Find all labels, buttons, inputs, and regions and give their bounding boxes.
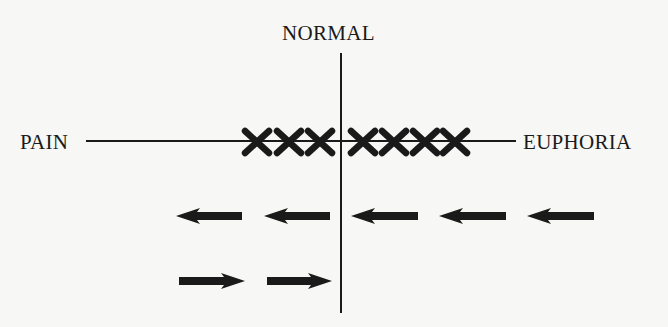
- arrow-left-icon: [439, 208, 506, 224]
- normal-label: NORMAL: [282, 23, 375, 44]
- diagram-graphic: [0, 0, 668, 327]
- arrow-rows: [176, 208, 594, 289]
- arrow-left-icon: [351, 208, 418, 224]
- arrow-left-icon: [527, 208, 594, 224]
- axes: [86, 53, 516, 313]
- euphoria-label: EUPHORIA: [523, 132, 632, 153]
- arrow-left-icon: [176, 208, 242, 224]
- arrow-right-icon: [267, 273, 332, 289]
- pain-label: PAIN: [20, 132, 68, 153]
- pain-euphoria-diagram: NORMAL PAIN EUPHORIA: [0, 0, 668, 327]
- arrow-right-icon: [179, 273, 245, 289]
- arrow-left-icon: [264, 208, 330, 224]
